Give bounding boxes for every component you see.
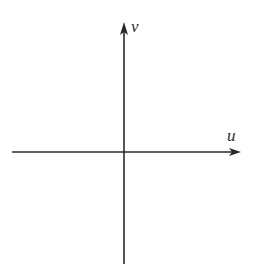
- uv-coordinate-plane: u v: [0, 0, 254, 266]
- v-axis-label: v: [131, 17, 139, 36]
- u-axis-label: u: [227, 126, 236, 145]
